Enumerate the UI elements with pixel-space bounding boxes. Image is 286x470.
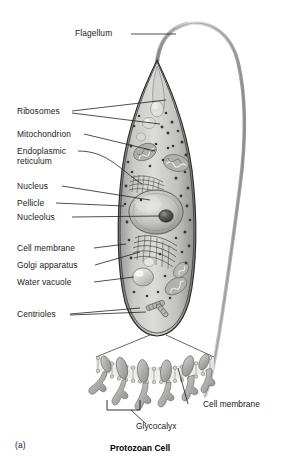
label-endoplasmic-reticulum-line1: Endoplasmic <box>17 146 66 156</box>
protozoan-cell-figure: Flagellum Ribosomes Mitochondrion Endopl… <box>0 0 286 470</box>
label-centrioles: Centrioles <box>17 309 56 319</box>
panel-letter: (a) <box>15 440 26 450</box>
nucleus-shape <box>128 189 184 235</box>
magnification-lines <box>96 335 214 357</box>
label-mitochondrion: Mitochondrion <box>17 129 71 139</box>
nucleolus-shape <box>159 210 173 222</box>
label-nucleus: Nucleus <box>17 181 48 191</box>
figure-caption: Protozoan Cell <box>110 443 170 453</box>
label-inset-cell-membrane: Cell membrane <box>203 399 260 409</box>
label-cell-membrane: Cell membrane <box>17 243 75 253</box>
label-glycocalyx: Glycocalyx <box>136 421 177 431</box>
cell-membrane-inset <box>89 353 215 424</box>
label-flagellum: Flagellum <box>75 28 112 38</box>
label-ribosomes: Ribosomes <box>17 106 60 116</box>
leader-pellicle <box>56 203 124 206</box>
phospholipid-bilayer <box>96 356 214 384</box>
label-endoplasmic-reticulum-line2: reticulum <box>17 156 52 166</box>
label-nucleolus: Nucleolus <box>17 212 55 222</box>
label-water-vacuole: Water vacuole <box>17 277 72 287</box>
label-golgi-apparatus: Golgi apparatus <box>17 260 78 270</box>
label-pellicle: Pellicle <box>17 198 44 208</box>
